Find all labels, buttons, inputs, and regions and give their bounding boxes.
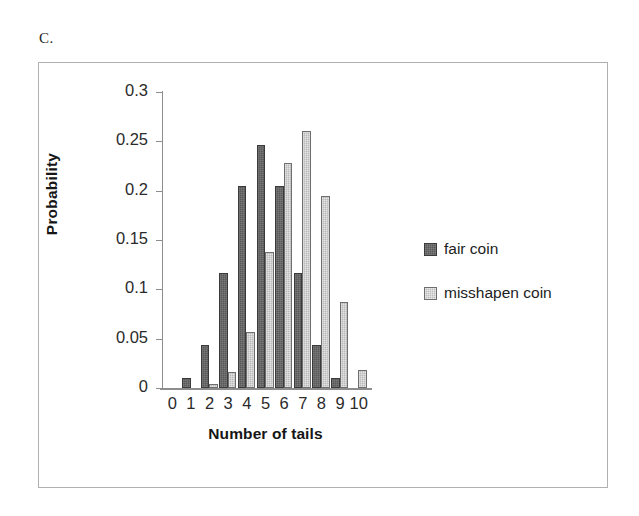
bar-group <box>331 92 350 388</box>
y-axis-tick-label: 0.15 <box>92 229 148 248</box>
bar-misshapen-7[interactable] <box>302 131 311 388</box>
bar-fair-9[interactable] <box>331 378 340 388</box>
legend-item-misshapen[interactable]: misshapen coin <box>424 284 594 302</box>
bar-group <box>163 92 182 388</box>
y-axis-tick-mark <box>156 339 162 340</box>
bar-fair-5[interactable] <box>257 145 266 388</box>
bar-misshapen-8[interactable] <box>321 196 330 388</box>
y-axis-tick-mark <box>156 191 162 192</box>
bar-group <box>275 92 294 388</box>
legend-swatch-icon <box>424 287 437 300</box>
bar-group <box>238 92 257 388</box>
bar-misshapen-4[interactable] <box>246 332 255 388</box>
y-axis-tick-mark <box>156 240 162 241</box>
bar-group <box>312 92 331 388</box>
bar-group <box>219 92 238 388</box>
y-axis-tick-mark <box>156 388 162 389</box>
bar-misshapen-2[interactable] <box>209 384 218 388</box>
bar-misshapen-6[interactable] <box>284 163 293 388</box>
y-axis-tick-label: 0.1 <box>92 278 148 297</box>
bar-fair-2[interactable] <box>201 345 210 388</box>
bar-fair-7[interactable] <box>294 273 303 388</box>
x-axis-title: Number of tails <box>163 425 368 443</box>
plot-area <box>163 92 368 388</box>
bar-group <box>200 92 219 388</box>
legend-item-fair[interactable]: fair coin <box>424 240 594 258</box>
panel-letter: C. <box>39 30 54 47</box>
y-axis-tick-labels: 0.30.250.20.150.10.050 <box>92 0 148 516</box>
x-axis-tick-labels: 012345678910 <box>163 394 368 420</box>
y-axis-tick-mark <box>156 92 162 93</box>
bar-fair-8[interactable] <box>312 345 321 388</box>
x-axis-tick-label: 10 <box>343 394 375 413</box>
bar-group <box>349 92 368 388</box>
bar-fair-3[interactable] <box>219 273 228 388</box>
chart-legend: fair coinmisshapen coin <box>424 240 594 328</box>
bar-fair-6[interactable] <box>275 186 284 388</box>
bar-misshapen-5[interactable] <box>265 252 274 388</box>
y-axis-tick-mark <box>156 289 162 290</box>
y-axis-tick-label: 0.2 <box>92 180 148 199</box>
legend-swatch-icon <box>424 243 437 256</box>
y-axis-tick-label: 0.25 <box>92 130 148 149</box>
bar-group <box>293 92 312 388</box>
bar-fair-4[interactable] <box>238 186 247 388</box>
bar-misshapen-10[interactable] <box>358 370 367 388</box>
y-axis-tick-label: 0.3 <box>92 81 148 100</box>
x-axis-line <box>160 388 372 390</box>
legend-item-label: fair coin <box>444 240 498 258</box>
y-axis-title: Probability <box>43 124 61 264</box>
legend-item-label: misshapen coin <box>444 284 552 302</box>
bar-group <box>182 92 201 388</box>
y-axis-tick-mark <box>156 141 162 142</box>
bar-misshapen-3[interactable] <box>228 372 237 388</box>
bar-fair-1[interactable] <box>182 378 191 388</box>
bar-misshapen-9[interactable] <box>340 302 349 388</box>
y-axis-tick-label: 0 <box>92 377 148 396</box>
y-axis-tick-label: 0.05 <box>92 328 148 347</box>
bar-group <box>256 92 275 388</box>
